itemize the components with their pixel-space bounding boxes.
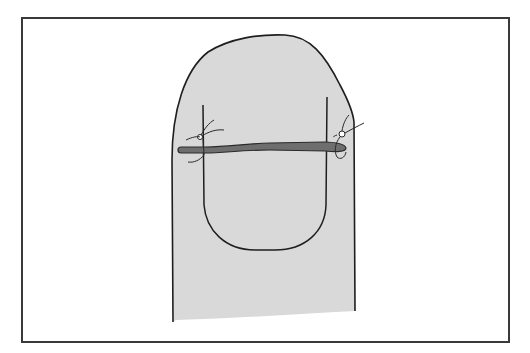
fingertip-illustration <box>0 0 530 353</box>
fingertip-drawing <box>0 0 530 353</box>
finger-skin <box>172 35 355 322</box>
